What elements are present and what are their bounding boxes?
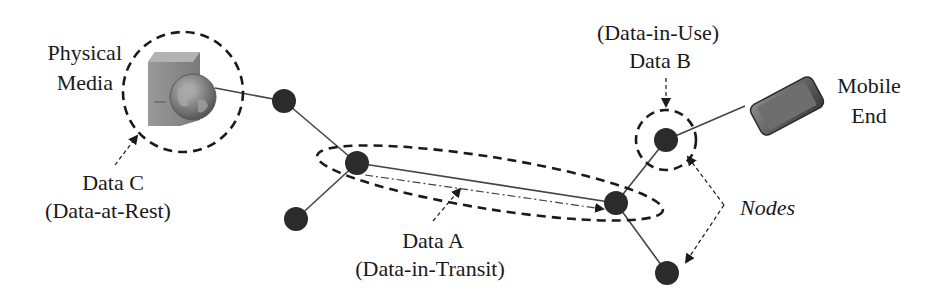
node	[655, 261, 679, 285]
mobile-end-label-1: Mobile	[837, 73, 901, 98]
smartphone-icon	[748, 75, 826, 138]
data-b-label: Data B	[629, 48, 691, 73]
data-c-sublabel: (Data-at-Rest)	[45, 198, 171, 223]
physical-media-label-1: Physical	[47, 40, 122, 65]
edge-n1-n2	[284, 101, 357, 163]
node	[654, 128, 678, 152]
data-c-label: Data C	[82, 170, 144, 195]
node	[272, 89, 296, 113]
nodes-arrow-up	[688, 157, 724, 205]
server-with-globe-icon	[148, 52, 216, 126]
edge-n2-n3	[296, 163, 357, 219]
nodes-label: Nodes	[739, 195, 795, 220]
node	[284, 207, 308, 231]
node	[345, 151, 369, 175]
nodes-arrow-down	[686, 205, 724, 262]
edge-n2-n4	[357, 163, 616, 203]
data-a-arrow	[433, 189, 460, 221]
data-c-arrow	[115, 136, 137, 165]
edges	[215, 88, 745, 273]
data-a-sublabel: (Data-in-Transit)	[355, 256, 505, 281]
transit-arrow	[365, 175, 603, 209]
data-states-diagram: Physical Media Data C (Data-at-Rest) Dat…	[0, 0, 936, 298]
globe-icon	[170, 74, 216, 120]
physical-media-label-2: Media	[57, 70, 113, 95]
node	[604, 191, 628, 215]
data-a-label: Data A	[402, 228, 464, 253]
mobile-end-label-2: End	[851, 103, 886, 128]
data-b-sublabel: (Data-in-Use)	[597, 20, 719, 45]
